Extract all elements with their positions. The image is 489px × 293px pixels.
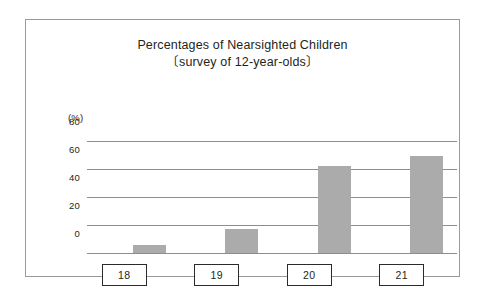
category-box-18: 18 [102, 264, 147, 286]
y-tick-label-0: 0 [44, 228, 80, 239]
chart-subtitle: 〔survey of 12-year-olds〕 [26, 54, 459, 71]
bar-20 [318, 166, 351, 253]
figure-frame: Percentages of Nearsighted Children 〔sur… [25, 19, 460, 277]
bar-19 [225, 229, 258, 253]
y-tick-label-20: 20 [44, 200, 80, 211]
chart-title-block: Percentages of Nearsighted Children 〔sur… [26, 37, 459, 71]
category-box-21: 21 [379, 264, 424, 286]
gridline-80 [87, 141, 457, 142]
y-tick-label-80: 80 [44, 116, 80, 127]
gridline-40 [87, 197, 457, 198]
axis-baseline [87, 253, 457, 254]
plot-area [87, 141, 457, 253]
gridline-20 [87, 225, 457, 226]
chart-title: Percentages of Nearsighted Children [26, 37, 459, 54]
y-tick-label-60: 60 [44, 144, 80, 155]
bar-18 [133, 245, 166, 253]
y-tick-label-40: 40 [44, 172, 80, 183]
bar-21 [410, 156, 443, 253]
category-box-20: 20 [287, 264, 332, 286]
gridline-60 [87, 169, 457, 170]
category-box-19: 19 [194, 264, 239, 286]
